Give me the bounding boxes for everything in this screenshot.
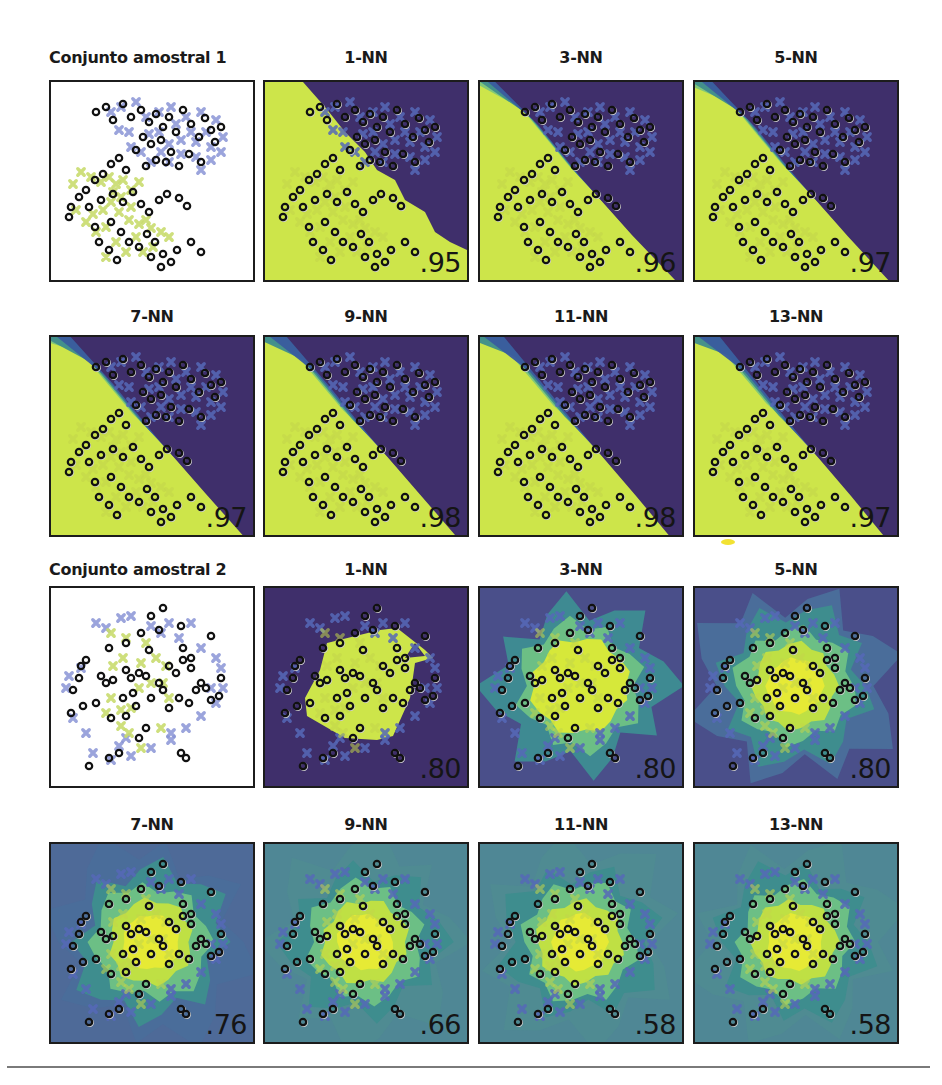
knn-panel-set1-3nn: .96 xyxy=(478,80,684,282)
panel-title-set2-1nn: 1-NN xyxy=(263,560,469,579)
panel-title-set2: Conjunto amostral 2 xyxy=(49,560,279,579)
panel-title-set2-13nn: 13-NN xyxy=(693,815,899,834)
knn-panel-set2-11nn: .58 xyxy=(478,842,684,1044)
knn-panel-set2-7nn: .76 xyxy=(49,842,255,1044)
ink-blot-artifact xyxy=(721,539,735,545)
knn-panel-set1-5nn: .97 xyxy=(693,80,899,282)
panel-title-set1-11nn: 11-NN xyxy=(478,307,684,326)
knn-panel-set2-3nn: .80 xyxy=(478,586,684,788)
panel-title-set2-3nn: 3-NN xyxy=(478,560,684,579)
panel-title-set2-9nn: 9-NN xyxy=(263,815,469,834)
accuracy-score: .58 xyxy=(635,1009,676,1040)
accuracy-score: .66 xyxy=(420,1009,461,1040)
panel-title-set1-9nn: 9-NN xyxy=(263,307,469,326)
accuracy-score: .97 xyxy=(850,502,891,533)
panel-title-set1-3nn: 3-NN xyxy=(478,48,684,67)
knn-panel-set2-5nn: .80 xyxy=(693,586,899,788)
panel-title-set1-13nn: 13-NN xyxy=(693,307,899,326)
accuracy-score: .80 xyxy=(420,753,461,784)
accuracy-score: .76 xyxy=(206,1009,247,1040)
panel-title-set1-5nn: 5-NN xyxy=(693,48,899,67)
panel-title-set2-11nn: 11-NN xyxy=(478,815,684,834)
plot-area xyxy=(51,588,253,786)
knn-panel-set1-1nn: .95 xyxy=(263,80,469,282)
accuracy-score: .97 xyxy=(850,247,891,278)
scatter-panel-set1 xyxy=(49,80,255,282)
bottom-rule xyxy=(7,1066,930,1068)
accuracy-score: .95 xyxy=(420,247,461,278)
knn-panel-set1-9nn: .98 xyxy=(263,335,469,537)
knn-panel-set2-1nn: .80 xyxy=(263,586,469,788)
panel-title-set2-7nn: 7-NN xyxy=(49,815,255,834)
accuracy-score: .80 xyxy=(635,753,676,784)
accuracy-score: .97 xyxy=(206,502,247,533)
panel-title-set1-7nn: 7-NN xyxy=(49,307,255,326)
accuracy-score: .98 xyxy=(420,502,461,533)
knn-panel-set1-13nn: .97 xyxy=(693,335,899,537)
accuracy-score: .96 xyxy=(635,247,676,278)
panel-title-set1-1nn: 1-NN xyxy=(263,48,469,67)
panel-title-set1: Conjunto amostral 1 xyxy=(49,48,279,67)
panel-title-set2-5nn: 5-NN xyxy=(693,560,899,579)
accuracy-score: .58 xyxy=(850,1009,891,1040)
accuracy-score: .80 xyxy=(850,753,891,784)
knn-panel-set2-9nn: .66 xyxy=(263,842,469,1044)
knn-panel-set2-13nn: .58 xyxy=(693,842,899,1044)
knn-panel-set1-11nn: .98 xyxy=(478,335,684,537)
accuracy-score: .98 xyxy=(635,502,676,533)
plot-area xyxy=(51,82,253,280)
knn-panel-set1-7nn: .97 xyxy=(49,335,255,537)
scatter-panel-set2 xyxy=(49,586,255,788)
